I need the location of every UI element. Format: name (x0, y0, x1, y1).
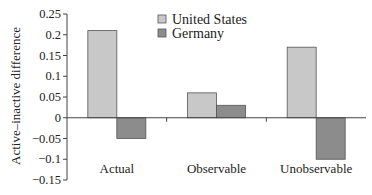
y-tick-label: 0.1 (45, 69, 61, 83)
bar-united-states-unobservable (287, 47, 316, 118)
y-tick-label: −0.15 (32, 173, 61, 187)
legend-label: Germany (172, 26, 224, 41)
y-tick-label: −0.1 (38, 152, 61, 166)
legend-label: United States (172, 12, 247, 27)
legend-swatch (158, 15, 166, 23)
bar-germany-observable (217, 105, 246, 117)
y-tick-label: 0.15 (39, 49, 61, 63)
bar-united-states-observable (188, 93, 217, 118)
bar-united-states-actual (88, 31, 117, 118)
y-tick-label: 0.25 (39, 7, 61, 21)
category-label: Unobservable (280, 161, 352, 176)
y-tick-label: 0.05 (39, 90, 61, 104)
y-tick-label: 0.2 (45, 28, 61, 42)
y-axis: 0.250.20.150.10.050−0.05−0.1−0.15 (32, 7, 67, 187)
legend-swatch (158, 29, 166, 37)
category-label: Actual (100, 161, 135, 176)
bars (88, 31, 345, 160)
bar-chart: Active–inactive difference 0.250.20.150.… (0, 0, 372, 195)
category-label: Observable (187, 161, 246, 176)
legend: United StatesGermany (158, 12, 247, 41)
bar-germany-actual (117, 118, 146, 139)
y-axis-title: Active–inactive difference (8, 27, 23, 165)
bar-germany-unobservable (316, 118, 345, 160)
y-tick-label: −0.05 (32, 132, 61, 146)
y-tick-label: 0 (55, 111, 61, 125)
